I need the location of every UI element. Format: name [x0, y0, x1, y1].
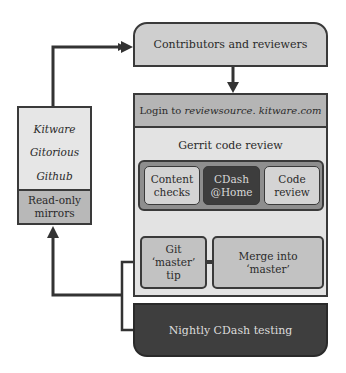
- merge-line1: Merge into: [239, 250, 298, 263]
- nightly-label: Nightly CDash testing: [169, 324, 293, 337]
- code-review-line2: review: [274, 186, 310, 199]
- merge-into-master-box: Merge into ‘master’: [212, 236, 324, 289]
- login-bar: Login to reviewsource. kitware.com: [135, 95, 326, 128]
- git-master-tip-box: Git ‘master’ tip: [140, 236, 207, 289]
- contributors-box: Contributors and reviewers: [133, 22, 328, 67]
- gerrit-title: Gerrit code review: [135, 135, 326, 155]
- login-host: reviewsource. kitware.com: [185, 105, 322, 116]
- mirror-gitorious: Gitorious: [19, 144, 90, 160]
- mirrors-label-line2: mirrors: [28, 207, 81, 220]
- read-only-mirrors-box: Kitware Gitorious Github Read-only mirro…: [17, 106, 92, 225]
- mirrors-label: Read-only mirrors: [19, 189, 90, 223]
- cdash-home-line2: @Home: [210, 186, 252, 199]
- content-checks-line2: checks: [151, 186, 194, 199]
- git-tip-line1: Git: [152, 243, 196, 256]
- checks-group: Content checks CDash @Home Code review: [138, 160, 324, 211]
- code-review-line1: Code: [274, 173, 310, 186]
- code-review-box: Code review: [264, 166, 320, 205]
- nightly-cdash-box: Nightly CDash testing: [133, 303, 328, 357]
- gerrit-box: Login to reviewsource. kitware.com Gerri…: [133, 93, 328, 297]
- mirrors-to-contributors-arrow: [53, 47, 124, 106]
- contributors-label: Contributors and reviewers: [154, 38, 308, 51]
- connector-to-mirrors-arrow: [53, 236, 122, 295]
- merge-line2: ‘master’: [239, 263, 298, 276]
- login-prefix: Login to: [139, 105, 184, 116]
- content-checks-line1: Content: [151, 173, 194, 186]
- git-tip-line2: ‘master’: [152, 256, 196, 269]
- mirrors-label-line1: Read-only: [28, 194, 81, 207]
- cdash-home-box: CDash @Home: [203, 166, 260, 205]
- mirror-kitware: Kitware: [19, 121, 90, 137]
- content-checks-box: Content checks: [144, 166, 200, 205]
- cdash-home-line1: CDash: [210, 173, 252, 186]
- git-tip-line3: tip: [152, 269, 196, 282]
- mirror-github: Github: [19, 168, 90, 184]
